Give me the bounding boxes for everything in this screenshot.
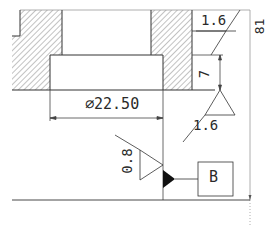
overall-height-dimension (249, 10, 252, 225)
finish-top-label: 1.6 (201, 13, 226, 27)
finish-side-label: 0.8 (120, 148, 134, 173)
right-section-hatch (151, 10, 192, 90)
datum-label: B (209, 170, 218, 185)
overall-height-label: 81 (253, 19, 265, 35)
surface-finish-bore (183, 90, 235, 142)
finish-bore-label: 1.6 (193, 118, 218, 132)
depth-label: 7 (197, 70, 211, 78)
diameter-label: ∅22.50 (85, 97, 139, 112)
datum-symbol (163, 162, 233, 196)
